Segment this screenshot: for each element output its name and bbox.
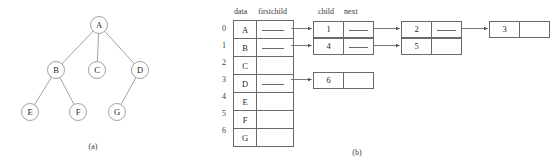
panel-b-child-lists: data firstchild child next 0123456 ABCDE… bbox=[200, 0, 511, 168]
cell-next bbox=[519, 22, 549, 37]
tree-edge bbox=[97, 33, 98, 61]
tree-edge bbox=[105, 31, 135, 63]
caption-a: (a) bbox=[78, 142, 108, 151]
tree-edge bbox=[34, 77, 51, 105]
tree-node-label-a: A bbox=[90, 16, 108, 34]
tree-node-label-d: D bbox=[131, 61, 149, 79]
tree-edge bbox=[62, 31, 93, 64]
tree-node-label-c: C bbox=[88, 61, 106, 79]
tree-edge bbox=[121, 77, 136, 104]
pointer-arrows-svg bbox=[200, 0, 511, 168]
tree-edge bbox=[60, 78, 74, 105]
tree-node-label-b: B bbox=[47, 61, 65, 79]
caption-b: (b) bbox=[342, 148, 372, 157]
tree-node-label-f: F bbox=[69, 103, 87, 121]
tree-node-label-e: E bbox=[21, 103, 39, 121]
panel-a-tree: ABCDEFG (a) bbox=[0, 0, 200, 168]
tree-node-label-g: G bbox=[108, 103, 126, 121]
